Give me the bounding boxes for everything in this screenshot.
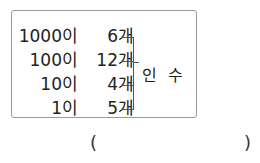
- answer-blank[interactable]: [102, 132, 242, 154]
- bracket-tick: [123, 85, 133, 86]
- place-value: 1이: [51, 97, 78, 119]
- count-value: 6개: [84, 25, 134, 47]
- place-value: 1000이: [19, 25, 78, 47]
- count-value: 5개: [84, 97, 134, 119]
- answer-close-paren: ): [244, 132, 251, 153]
- row-place-1000: 1000이: [12, 25, 78, 47]
- bracket-label: 인 수: [142, 62, 186, 86]
- answer-open-paren: (: [90, 132, 97, 153]
- row-place-1: 1이: [12, 97, 78, 119]
- bracket-tick: [123, 37, 133, 38]
- place-value: 100이: [30, 49, 78, 71]
- row-place-10: 10이: [12, 73, 78, 95]
- count-value: 4개: [84, 73, 134, 95]
- bracket-line: [133, 37, 134, 110]
- bracket-connector: [133, 62, 139, 63]
- row-place-100: 100이: [12, 49, 78, 71]
- bracket-tick: [123, 61, 133, 62]
- bracket-tick: [123, 109, 133, 110]
- count-value: 12개: [84, 49, 134, 71]
- place-value: 10이: [40, 73, 78, 95]
- problem-box: 1000이 6개 100이 12개 10이 4개 1이 5개 인 수: [11, 10, 197, 118]
